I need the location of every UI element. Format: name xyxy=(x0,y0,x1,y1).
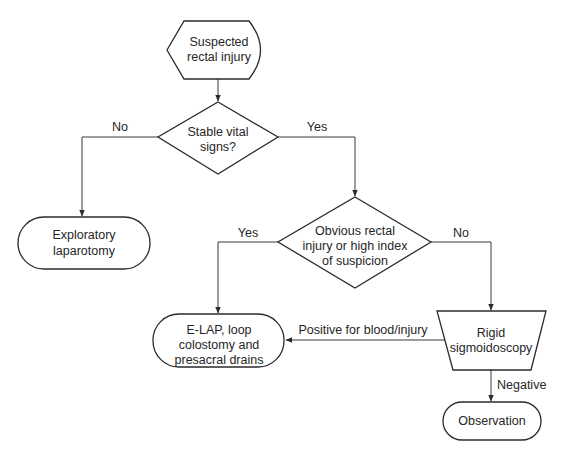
node-exploratory-laparotomy: Exploratory laparotomy xyxy=(18,217,150,269)
node-observation: Observation xyxy=(443,402,541,440)
node-text: Suspected xyxy=(189,35,248,49)
node-text: Rigid xyxy=(477,326,506,340)
edge-suspicion-yes xyxy=(218,242,278,313)
label-vitals-no: No xyxy=(112,120,128,134)
edge-vitals-yes xyxy=(278,137,355,196)
node-obvious-rectal-injury: Obvious rectal injury or high index of s… xyxy=(278,197,431,288)
edge-suspicion-no xyxy=(431,242,491,310)
node-text: of suspicion xyxy=(322,254,388,268)
node-text: Obvious rectal xyxy=(315,224,395,238)
node-text: rectal injury xyxy=(187,50,252,64)
node-text: laparotomy xyxy=(53,244,116,258)
label-suspicion-no: No xyxy=(453,226,469,240)
node-text: injury or high index xyxy=(303,239,409,253)
node-text: Exploratory xyxy=(52,228,116,242)
edge-vitals-no xyxy=(82,137,158,216)
node-text: Observation xyxy=(458,414,525,428)
flowchart: No Yes Yes No Positive for blood/injury … xyxy=(0,0,564,457)
label-vitals-yes: Yes xyxy=(307,120,327,134)
node-elap-loop-colostomy: E-LAP, loop colostomy and presacral drai… xyxy=(153,314,284,367)
terminator-shape xyxy=(18,217,150,269)
label-sigmoid-negative: Negative xyxy=(497,378,546,392)
label-suspicion-yes: Yes xyxy=(238,226,258,240)
node-suspected-rectal-injury: Suspected rectal injury xyxy=(167,21,261,79)
node-text: presacral drains xyxy=(175,353,264,367)
node-text: E-LAP, loop xyxy=(186,323,251,337)
node-text: signs? xyxy=(200,140,236,154)
node-stable-vital-signs: Stable vital signs? xyxy=(158,102,278,174)
label-sigmoid-positive: Positive for blood/injury xyxy=(298,323,428,337)
node-text: colostomy and xyxy=(179,338,260,352)
node-text: Stable vital xyxy=(187,125,248,139)
node-rigid-sigmoidoscopy: Rigid sigmoidoscopy xyxy=(437,311,546,370)
node-text: sigmoidoscopy xyxy=(450,341,533,355)
